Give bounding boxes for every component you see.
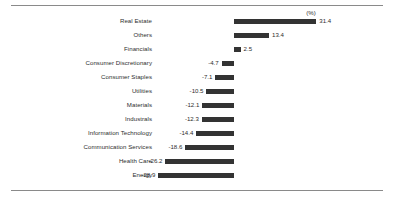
- category-label: Communication Services: [0, 141, 152, 153]
- value-label: -26.2: [148, 155, 162, 167]
- value-label: -28.9: [141, 169, 155, 181]
- value-label: 31.4: [319, 15, 331, 27]
- value-bar: [234, 33, 269, 38]
- category-label: Others: [0, 29, 152, 41]
- value-label: 13.4: [272, 29, 284, 41]
- value-bar: [196, 131, 234, 136]
- category-label: Industrals: [0, 113, 152, 125]
- category-label: Consumer Discretionary: [0, 57, 152, 69]
- category-label: Real Estate: [0, 15, 152, 27]
- value-bar: [202, 117, 234, 122]
- chart-row-health-care: Health Care -26.2: [0, 154, 394, 168]
- value-label: -18.6: [168, 141, 182, 153]
- chart-row-consumer-discretionary: Consumer Discretionary -4.7: [0, 56, 394, 70]
- value-bar: [158, 173, 234, 178]
- value-bar: [222, 61, 234, 66]
- value-label: -4.7: [208, 57, 219, 69]
- value-bar: [234, 47, 241, 52]
- chart-figure: (%) Real Estate 31.4 Others 13.4 Financi…: [0, 0, 394, 206]
- category-label: Consumer Staples: [0, 71, 152, 83]
- category-label: Energy: [0, 169, 152, 181]
- value-label: -7.1: [202, 71, 213, 83]
- chart-row-energy: Energy -28.9: [0, 168, 394, 182]
- category-label: Financials: [0, 43, 152, 55]
- bottom-divider-rule: [11, 190, 383, 191]
- value-label: -10.5: [190, 85, 204, 97]
- category-label: Health Care: [0, 155, 152, 167]
- chart-row-others: Others 13.4: [0, 28, 394, 42]
- chart-row-real-estate: Real Estate 31.4: [0, 14, 394, 28]
- chart-row-materials: Materials -12.1: [0, 98, 394, 112]
- value-bar: [165, 159, 234, 164]
- category-label: Utilities: [0, 85, 152, 97]
- top-divider-rule: [11, 5, 383, 6]
- value-label: -12.3: [185, 113, 199, 125]
- category-label: Materials: [0, 99, 152, 111]
- chart-row-industrals: Industrals -12.3: [0, 112, 394, 126]
- chart-row-financials: Financials 2.5: [0, 42, 394, 56]
- value-bar: [234, 19, 316, 24]
- value-label: -12.1: [185, 99, 199, 111]
- bar-chart-plot-area: Real Estate 31.4 Others 13.4 Financials …: [0, 14, 394, 186]
- chart-row-communication-services: Communication Services -18.6: [0, 140, 394, 154]
- value-bar: [185, 145, 234, 150]
- value-bar: [215, 75, 234, 80]
- value-label: 2.5: [244, 43, 252, 55]
- chart-row-utilities: Utilities -10.5: [0, 84, 394, 98]
- value-label: -14.4: [179, 127, 193, 139]
- chart-row-information-technology: Information Technology -14.4: [0, 126, 394, 140]
- value-bar: [202, 103, 234, 108]
- category-label: Information Technology: [0, 127, 152, 139]
- value-bar: [206, 89, 234, 94]
- chart-row-consumer-staples: Consumer Staples -7.1: [0, 70, 394, 84]
